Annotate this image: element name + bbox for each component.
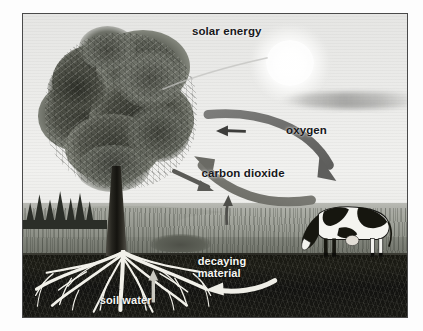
solar-energy-ray	[162, 58, 267, 90]
label-solar-energy: solar energy	[192, 25, 262, 38]
scene: solar energy oxygen carbon dioxide decay…	[23, 14, 407, 317]
label-carbon-dioxide: carbon dioxide	[202, 167, 285, 180]
label-soil-water: soil water	[100, 294, 152, 306]
decaying-material-arrow	[205, 281, 275, 296]
label-decaying-material-line1: decaying	[198, 255, 247, 267]
label-decaying-material: decaying material	[198, 255, 247, 280]
illustration-canvas: solar energy oxygen carbon dioxide decay…	[0, 0, 423, 331]
label-oxygen: oxygen	[286, 124, 327, 137]
oxygen-direction-marker	[216, 125, 246, 136]
image-frame: solar energy oxygen carbon dioxide decay…	[22, 13, 408, 318]
ground-uptake-arrow	[223, 195, 233, 225]
label-decaying-material-line2: material	[198, 267, 247, 279]
